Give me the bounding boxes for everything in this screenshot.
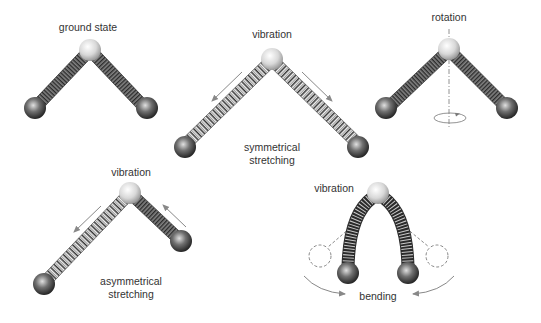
- ghost-atom-right: [426, 245, 448, 267]
- asymmetric-caption-line1: asymmetrical: [100, 275, 162, 287]
- vibration-modes-diagram: ground state vibration symmetrical stret…: [0, 0, 541, 323]
- atom-left: [337, 262, 359, 284]
- atom-left: [375, 97, 397, 119]
- spring-right: [268, 56, 364, 150]
- ghost-atom-left: [309, 245, 331, 267]
- symmetric-caption-line2: stretching: [249, 154, 295, 166]
- ground-state-panel: ground state: [24, 21, 158, 119]
- atom-left: [24, 97, 46, 119]
- rotation-panel: rotation: [375, 11, 518, 128]
- atom-center: [119, 182, 141, 204]
- spring-left-stretched: [40, 189, 134, 287]
- asymmetric-caption-line2: stretching: [108, 288, 154, 300]
- symmetric-vibration-label: vibration: [252, 28, 292, 40]
- ground-state-label: ground state: [59, 21, 118, 33]
- atom-center: [261, 48, 283, 70]
- asymmetric-vibration-label: vibration: [111, 166, 151, 178]
- bending-panel: vibration bending: [304, 182, 454, 302]
- atom-left: [174, 136, 196, 158]
- atom-left: [33, 273, 55, 295]
- arrow-bend-right: [413, 276, 454, 294]
- bending-caption: bending: [359, 290, 397, 302]
- rotation-arrow-icon: [434, 113, 466, 123]
- rotation-label: rotation: [431, 11, 466, 23]
- symmetric-caption-line1: symmetrical: [244, 141, 300, 153]
- atom-right: [347, 136, 369, 158]
- atom-center: [367, 182, 389, 204]
- atom-right: [136, 97, 158, 119]
- atom-right: [170, 230, 192, 252]
- bending-vibration-label: vibration: [314, 182, 354, 194]
- spring-left: [180, 56, 276, 150]
- atom-right: [496, 97, 518, 119]
- symmetric-stretch-panel: vibration symmetrical stretching: [174, 28, 369, 166]
- asymmetric-stretch-panel: vibration asymmetrical stretching: [33, 166, 192, 300]
- atom-center: [438, 38, 460, 60]
- atom-center: [79, 39, 101, 61]
- atom-right: [397, 262, 419, 284]
- rotation-arrowhead-icon: [455, 113, 460, 117]
